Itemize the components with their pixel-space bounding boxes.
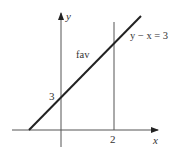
line-equation-label: y − x = 3 (130, 30, 168, 41)
diagram-canvas: y x y − x = 3 fav 3 2 (0, 0, 175, 158)
line-y-minus-x-eq-3 (29, 16, 141, 130)
x-axis-label: x (152, 134, 158, 146)
region-label: fav (76, 49, 90, 60)
y-axis-label: y (65, 10, 71, 22)
x-tick-label-2: 2 (110, 133, 116, 145)
y-intercept-label: 3 (49, 90, 55, 102)
